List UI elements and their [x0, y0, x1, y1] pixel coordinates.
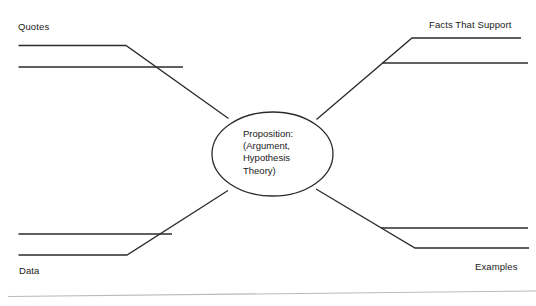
bottom-rule: [8, 291, 536, 297]
branch-label-quotes: Quotes: [18, 21, 49, 32]
diagram-canvas: Quotes Facts That Support Data Examples …: [0, 0, 536, 306]
center-text-line-1: Proposition:: [243, 128, 293, 140]
branch-line-quotes-upper: [19, 46, 229, 119]
center-text-line-4: Theory): [243, 165, 293, 177]
branch-line-examples-lower: [316, 189, 529, 248]
branch-line-facts-upper: [317, 38, 522, 120]
center-text-line-3: Hypothesis: [243, 152, 293, 164]
branch-label-data: Data: [19, 265, 39, 276]
center-text-line-2: (Argument,: [243, 140, 293, 152]
branch-line-data-lower: [19, 191, 229, 256]
center-node-text: Proposition: (Argument, Hypothesis Theor…: [243, 128, 293, 177]
branch-label-examples: Examples: [475, 261, 518, 272]
branch-label-facts-that-support: Facts That Support: [429, 19, 511, 30]
